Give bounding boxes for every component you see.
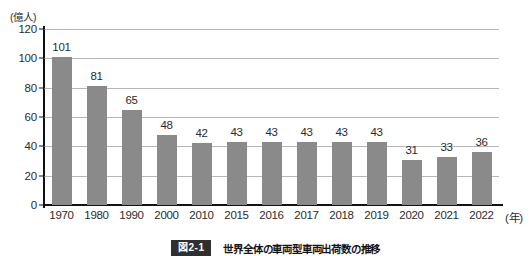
y-axis-tick-label: 60 — [25, 111, 44, 123]
bar-value-label: 43 — [230, 126, 242, 138]
bar-value-label: 81 — [90, 70, 102, 82]
bar-value-label: 31 — [405, 144, 417, 156]
y-axis-tick-label: 100 — [18, 52, 44, 64]
figure-caption: 図2-1 世界全体の車両型車両出荷数の推移 — [171, 240, 380, 256]
y-axis-tick-label: 120 — [18, 23, 44, 35]
figure-number-badge: 図2-1 — [171, 240, 211, 256]
gridline — [44, 117, 499, 118]
x-axis-tick-label: 2015 — [224, 209, 248, 221]
x-axis-tick-label: 2018 — [329, 209, 353, 221]
x-axis-tick-label: 2000 — [154, 209, 178, 221]
bar — [332, 142, 352, 205]
bar-value-label: 101 — [52, 41, 70, 53]
bar — [472, 152, 492, 205]
x-axis-tick-label: 2022 — [469, 209, 493, 221]
bar-value-label: 43 — [370, 126, 382, 138]
bar-value-label: 48 — [160, 119, 172, 131]
bar — [157, 135, 177, 205]
x-axis-tick-label: 2019 — [364, 209, 388, 221]
bar — [262, 142, 282, 205]
gridline — [44, 58, 499, 59]
bar-value-label: 43 — [265, 126, 277, 138]
gridline — [44, 88, 499, 89]
bar-value-label: 33 — [440, 141, 452, 153]
x-axis-tick-label: 1990 — [119, 209, 143, 221]
x-axis-title: (年) — [505, 209, 523, 225]
y-axis-tick-label: 40 — [25, 140, 44, 152]
bar — [52, 57, 72, 205]
x-axis-tick-label: 2021 — [434, 209, 458, 221]
bar — [297, 142, 317, 205]
bar — [367, 142, 387, 205]
bar — [402, 160, 422, 205]
bar — [87, 86, 107, 205]
x-axis-tick-label: 2010 — [189, 209, 213, 221]
bar — [227, 142, 247, 205]
figure-caption-text: 世界全体の車両型車両出荷数の推移 — [223, 241, 380, 256]
bar-value-label: 36 — [475, 136, 487, 148]
bar-value-label: 42 — [195, 127, 207, 139]
bar — [192, 143, 212, 205]
y-axis-tick-label: 0 — [31, 199, 44, 211]
y-axis-tick-label: 20 — [25, 170, 44, 182]
x-axis-tick-label: 2017 — [294, 209, 318, 221]
plot-area: 1201008060402001018165484243434343433133… — [44, 29, 499, 205]
bar-value-label: 43 — [300, 126, 312, 138]
x-axis-tick-label: 2020 — [399, 209, 423, 221]
x-axis-tick-label: 1980 — [84, 209, 108, 221]
y-axis-tick-label: 80 — [25, 82, 44, 94]
bar-value-label: 43 — [335, 126, 347, 138]
bar — [437, 157, 457, 205]
gridline — [44, 29, 499, 30]
bar-value-label: 65 — [125, 94, 137, 106]
bar — [122, 110, 142, 205]
x-axis-tick-label: 1970 — [49, 209, 73, 221]
x-axis-tick-label: 2016 — [259, 209, 283, 221]
y-axis-unit-label: (億人) — [10, 9, 36, 24]
